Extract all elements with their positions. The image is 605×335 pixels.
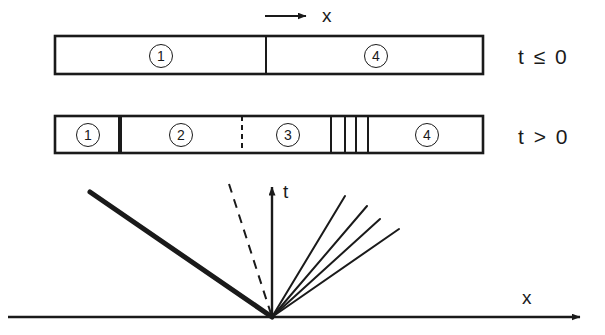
contact-discontinuity-line bbox=[229, 184, 272, 317]
evolved-condition-label: t > 0 bbox=[518, 126, 569, 147]
evolved-bar-state-1: 1 bbox=[76, 123, 100, 147]
initial-state-bar bbox=[55, 36, 483, 74]
shock-wave-line bbox=[90, 192, 272, 317]
initial-bar-state-number: 4 bbox=[372, 49, 380, 63]
evolved-bar-state-number: 1 bbox=[84, 128, 92, 142]
evolved-bar-state-number: 4 bbox=[423, 128, 431, 142]
evolved-bar-state-number: 3 bbox=[284, 128, 292, 142]
initial-bar-state-1: 1 bbox=[149, 44, 173, 68]
riemann-diagram-svg bbox=[0, 0, 605, 335]
initial-condition-label: t ≤ 0 bbox=[518, 46, 569, 67]
evolved-bar-state-2: 2 bbox=[169, 123, 193, 147]
evolved-bar-state-4: 4 bbox=[415, 123, 439, 147]
rarefaction-fan-lines bbox=[272, 196, 399, 317]
t-axis-label: t bbox=[283, 182, 288, 201]
top-x-axis-label: x bbox=[322, 6, 332, 25]
rarefaction-ray-0 bbox=[272, 196, 345, 317]
initial-bar-state-4: 4 bbox=[364, 44, 388, 68]
initial-bar-state-number: 1 bbox=[157, 49, 165, 63]
xt-wave-diagram bbox=[8, 184, 580, 317]
rarefaction-ray-2 bbox=[272, 219, 380, 317]
evolved-bar-state-3: 3 bbox=[276, 123, 300, 147]
x-axis-label: x bbox=[522, 288, 532, 307]
evolved-bar-state-number: 2 bbox=[177, 128, 185, 142]
figure-canvas: 14 1234 x t ≤ 0 t > 0 t x bbox=[0, 0, 605, 335]
